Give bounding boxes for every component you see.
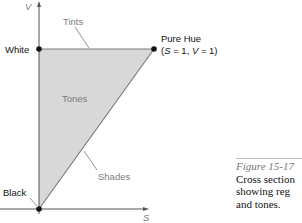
shades-leader (84, 151, 97, 170)
shades-label: Shades (98, 171, 130, 182)
black-point (36, 206, 42, 212)
black-leader (30, 198, 37, 206)
white-point (36, 46, 42, 52)
equals-one-close: = 1) (198, 45, 217, 56)
tones-label: Tones (62, 93, 87, 104)
white-label: White (5, 44, 29, 55)
pure-hue-point (151, 46, 157, 52)
pure-hue-label: Pure Hue (161, 33, 201, 44)
equals-one: = 1, (171, 45, 192, 56)
caption-divider (236, 158, 302, 159)
black-label: Black (3, 187, 26, 198)
pure-hue-coords: (S = 1, V = 1) (161, 45, 218, 56)
tints-leader (75, 27, 89, 48)
figure-caption: Figure 15-17 Cross section showing reg a… (236, 160, 302, 210)
v-axis-arrow-icon (37, 1, 41, 7)
s-axis-label: S (143, 212, 149, 223)
caption-line-3: and tones. (236, 198, 302, 211)
tints-label: Tints (63, 16, 83, 27)
caption-line-1: Cross section (236, 173, 302, 186)
caption-line-2: showing reg (236, 185, 302, 198)
caption-title: Figure 15-17 (236, 160, 302, 173)
s-axis-arrow-icon (143, 207, 149, 211)
v-axis-label: V (25, 1, 31, 12)
